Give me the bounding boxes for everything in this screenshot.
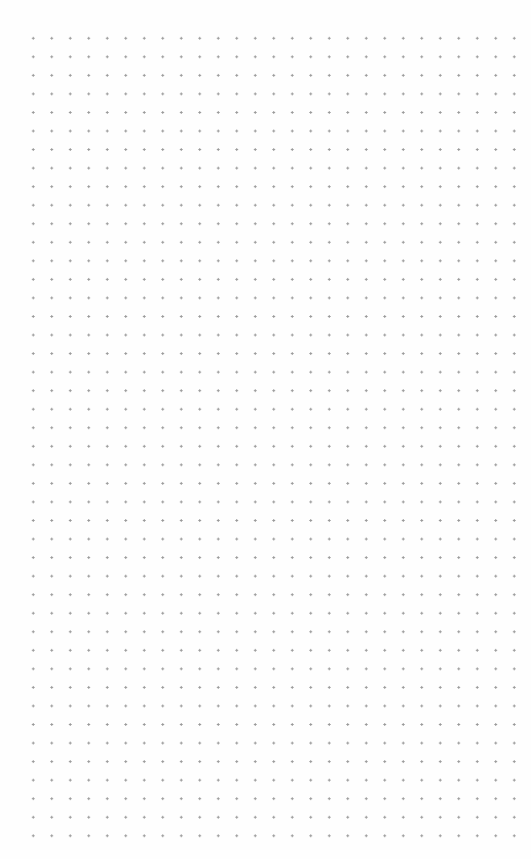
dot-grid-page xyxy=(0,0,531,859)
dot-grid xyxy=(24,29,524,845)
